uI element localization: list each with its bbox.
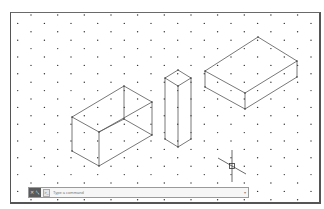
close-icon[interactable]: ✕ xyxy=(30,188,34,197)
chevron-down-icon[interactable]: ▾ xyxy=(242,188,248,197)
drawing-objects[interactable] xyxy=(71,36,298,167)
command-line[interactable]: ✕ 🔧 >_ ▾ xyxy=(28,187,249,198)
left-open-box[interactable] xyxy=(71,85,153,167)
crosshair-cursor-icon xyxy=(218,150,246,182)
command-input[interactable] xyxy=(50,188,242,197)
drawing-canvas[interactable] xyxy=(10,12,321,204)
command-line-handle[interactable]: ✕ 🔧 xyxy=(29,188,41,197)
drawing-svg[interactable] xyxy=(10,12,321,204)
isometric-grid xyxy=(17,14,312,200)
wrench-icon[interactable]: 🔧 xyxy=(35,188,40,197)
command-prompt-icon[interactable]: >_ xyxy=(43,189,50,197)
tall-column[interactable] xyxy=(164,69,192,148)
